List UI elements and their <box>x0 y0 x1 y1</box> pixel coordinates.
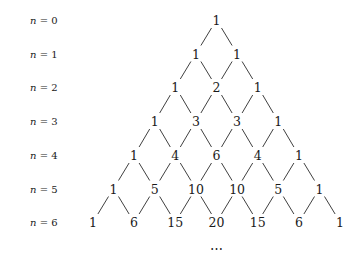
connector-line <box>119 197 130 215</box>
row-label-equals: = <box>36 217 51 228</box>
entry-r5-k3: 10 <box>229 181 245 196</box>
row-label-n0: n = 0 <box>30 15 58 26</box>
row-label-n4: n = 4 <box>30 150 58 161</box>
row-label-equals: = <box>36 82 51 93</box>
pascal-triangle-diagram: n = 0n = 1n = 2n = 3n = 4n = 5n = 6 1111… <box>0 0 361 265</box>
connector-line <box>180 163 191 181</box>
entry-r5-k0: 1 <box>110 181 118 196</box>
connector-line <box>180 62 191 80</box>
connector-line <box>139 197 150 215</box>
connector-line <box>201 28 212 46</box>
entry-r4-k1: 4 <box>171 148 179 163</box>
entry-r5-k4: 5 <box>274 181 282 196</box>
entry-r6-k0: 1 <box>89 215 97 230</box>
entry-r5-k5: 1 <box>316 181 324 196</box>
row-label-value: 6 <box>51 217 57 228</box>
connector-line <box>283 197 294 215</box>
connector-line <box>201 62 212 80</box>
entry-r0-k0: 1 <box>213 13 221 28</box>
connector-line <box>98 197 109 215</box>
connector-line <box>222 95 233 113</box>
row-label-n5: n = 5 <box>30 183 58 194</box>
connector-line <box>283 129 294 147</box>
connector-line <box>222 62 233 80</box>
connector-line <box>304 197 315 215</box>
connector-line <box>222 28 233 46</box>
entry-r4-k3: 4 <box>254 148 262 163</box>
entry-r5-k2: 10 <box>188 181 204 196</box>
row-label-equals: = <box>36 48 51 59</box>
entry-r2-k2: 1 <box>254 80 262 95</box>
entry-r1-k0: 1 <box>192 46 200 61</box>
row-label-n1: n = 1 <box>30 48 58 59</box>
row-label-equals: = <box>36 116 51 127</box>
entry-r2-k0: 1 <box>171 80 179 95</box>
connector-line <box>160 95 171 113</box>
row-label-value: 3 <box>51 116 57 127</box>
connector-line <box>160 197 171 215</box>
entry-r6-k2: 15 <box>167 215 183 230</box>
entry-r3-k3: 1 <box>274 114 282 129</box>
connector-line <box>139 163 150 181</box>
connector-line <box>222 163 233 181</box>
connector-line <box>180 95 191 113</box>
entry-r1-k1: 1 <box>233 46 241 61</box>
connector-line <box>160 163 171 181</box>
row-label-value: 2 <box>51 82 57 93</box>
connector-line <box>325 197 336 215</box>
entry-r3-k1: 3 <box>192 114 200 129</box>
entry-r4-k4: 1 <box>295 148 303 163</box>
entry-r3-k2: 3 <box>233 114 241 129</box>
entry-r6-k6: 1 <box>336 215 344 230</box>
connector-line <box>263 129 274 147</box>
row-label-n6: n = 6 <box>30 217 58 228</box>
connector-line <box>242 197 253 215</box>
connector-line <box>201 129 212 147</box>
continuation-ellipsis: ⋯ <box>210 241 224 256</box>
entry-r6-k4: 15 <box>250 215 266 230</box>
connector-line <box>139 129 150 147</box>
row-label-equals: = <box>36 15 51 26</box>
entry-r3-k0: 1 <box>151 114 159 129</box>
row-label-equals: = <box>36 150 51 161</box>
connector-line <box>263 163 274 181</box>
connector-line <box>242 163 253 181</box>
connector-line <box>201 197 212 215</box>
connector-line <box>283 163 294 181</box>
row-label-value: 1 <box>51 48 57 59</box>
connector-line <box>304 163 315 181</box>
connector-line <box>242 129 253 147</box>
connector-line <box>160 129 171 147</box>
connector-line <box>180 197 191 215</box>
entry-r5-k1: 5 <box>151 181 159 196</box>
entry-r2-k1: 2 <box>213 80 221 95</box>
connector-line <box>180 129 191 147</box>
connector-line <box>222 197 233 215</box>
entry-r4-k2: 6 <box>213 148 221 163</box>
row-label-n2: n = 2 <box>30 82 58 93</box>
entry-r6-k5: 6 <box>295 215 303 230</box>
connector-line <box>222 129 233 147</box>
row-label-value: 0 <box>51 15 57 26</box>
entry-r6-k3: 20 <box>209 215 225 230</box>
entry-r4-k0: 1 <box>130 148 138 163</box>
row-label-value: 5 <box>51 183 57 194</box>
connector-line <box>242 62 253 80</box>
connector-line <box>201 163 212 181</box>
row-label-equals: = <box>36 183 51 194</box>
connector-line <box>263 95 274 113</box>
row-label-n3: n = 3 <box>30 116 58 127</box>
connector-line <box>201 95 212 113</box>
row-label-value: 4 <box>51 150 57 161</box>
connector-line <box>242 95 253 113</box>
connector-line <box>119 163 130 181</box>
entry-r6-k1: 6 <box>130 215 138 230</box>
connector-line <box>263 197 274 215</box>
